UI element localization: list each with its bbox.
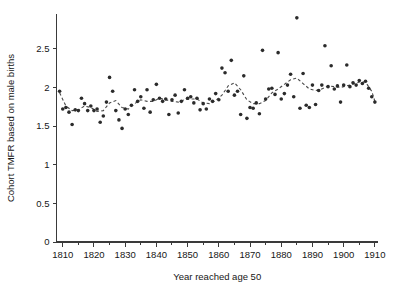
data-point	[276, 51, 280, 55]
data-point	[70, 123, 74, 127]
data-point	[283, 92, 287, 96]
y-tick-label: 2	[44, 82, 49, 93]
y-tick-label: 2.5	[36, 43, 49, 54]
data-point	[351, 81, 355, 85]
scatter-plot-canvas: 00.511.522.5 181018201830184018501860187…	[0, 0, 393, 295]
data-point	[264, 97, 268, 101]
data-point	[117, 118, 121, 122]
data-point	[201, 102, 205, 106]
data-point	[67, 110, 71, 114]
trend-line-series	[60, 78, 375, 111]
data-point	[267, 87, 271, 91]
x-tick-label: 1890	[302, 249, 323, 260]
x-tick-label: 1900	[333, 249, 354, 260]
y-tick-label: 0	[44, 236, 49, 247]
x-tick-label: 1840	[146, 249, 167, 260]
data-point	[254, 101, 258, 105]
data-point	[83, 102, 87, 106]
data-point	[114, 109, 118, 113]
data-point	[77, 109, 81, 113]
data-point	[136, 100, 140, 104]
data-point	[345, 63, 349, 67]
data-point	[226, 89, 230, 93]
data-point	[126, 113, 130, 117]
data-point	[289, 72, 293, 76]
data-point	[354, 83, 358, 87]
data-point	[111, 89, 115, 93]
data-point	[333, 87, 337, 91]
x-tick-label: 1830	[115, 249, 136, 260]
data-point	[217, 98, 221, 102]
data-point	[73, 108, 77, 112]
data-point	[211, 100, 215, 104]
data-point	[148, 110, 152, 114]
data-point	[286, 83, 290, 87]
data-point	[295, 16, 299, 20]
data-point	[192, 101, 196, 105]
data-point	[167, 113, 171, 117]
data-point	[80, 96, 84, 100]
y-tick-label: 1	[44, 159, 49, 170]
data-point	[108, 76, 112, 80]
data-point	[326, 85, 330, 89]
data-point	[92, 109, 96, 113]
data-point	[301, 72, 305, 76]
data-point	[145, 88, 149, 92]
data-point	[361, 82, 365, 86]
data-point	[105, 100, 109, 104]
data-point	[304, 103, 308, 107]
data-point	[89, 104, 93, 108]
x-tick-label: 1850	[177, 249, 198, 260]
data-point	[164, 97, 168, 101]
data-point	[151, 98, 155, 102]
chart-figure: 00.511.522.5 181018201830184018501860187…	[0, 0, 393, 295]
data-point	[223, 71, 227, 75]
data-point	[130, 103, 134, 107]
data-point	[186, 96, 190, 100]
x-tick-label: 1860	[208, 249, 229, 260]
data-point	[270, 86, 274, 90]
data-point	[342, 83, 346, 87]
data-point	[173, 93, 177, 97]
data-point	[273, 93, 277, 97]
data-point	[367, 86, 371, 90]
data-point	[251, 106, 255, 110]
data-point	[64, 106, 68, 110]
x-axis-group: 1810182018301840185018601870188018901900…	[52, 242, 385, 260]
data-point	[61, 107, 65, 111]
data-point	[161, 100, 165, 104]
x-tick-label: 1810	[52, 249, 73, 260]
x-tick-label: 1870	[239, 249, 260, 260]
data-point	[279, 97, 283, 101]
data-point	[139, 95, 143, 99]
data-point	[373, 100, 377, 104]
data-point	[298, 106, 302, 110]
x-axis-tick-labels: 1810182018301840185018601870188018901900…	[52, 249, 385, 260]
data-point	[86, 109, 90, 113]
data-point	[220, 66, 224, 70]
y-axis-tick-labels: 00.511.522.5	[36, 43, 49, 247]
data-point	[142, 106, 146, 110]
data-point	[123, 107, 127, 111]
data-point	[314, 103, 318, 107]
data-point	[233, 93, 237, 97]
data-point	[230, 59, 234, 63]
x-tick-label: 1820	[83, 249, 104, 260]
data-point	[323, 44, 327, 48]
data-point	[102, 114, 106, 118]
data-point	[261, 49, 265, 53]
data-point	[239, 113, 243, 117]
x-axis-title: Year reached age 50	[173, 271, 261, 282]
data-point	[311, 83, 315, 87]
data-point	[198, 108, 202, 112]
data-point	[308, 106, 312, 110]
data-point	[292, 95, 296, 99]
data-point	[195, 96, 199, 100]
data-point	[95, 107, 99, 111]
y-axis-title: Cohort TMFR based on male births	[5, 54, 16, 202]
x-tick-label: 1880	[271, 249, 292, 260]
data-point	[189, 95, 193, 99]
data-point	[339, 100, 343, 104]
data-point	[245, 117, 249, 121]
data-point	[357, 79, 361, 83]
